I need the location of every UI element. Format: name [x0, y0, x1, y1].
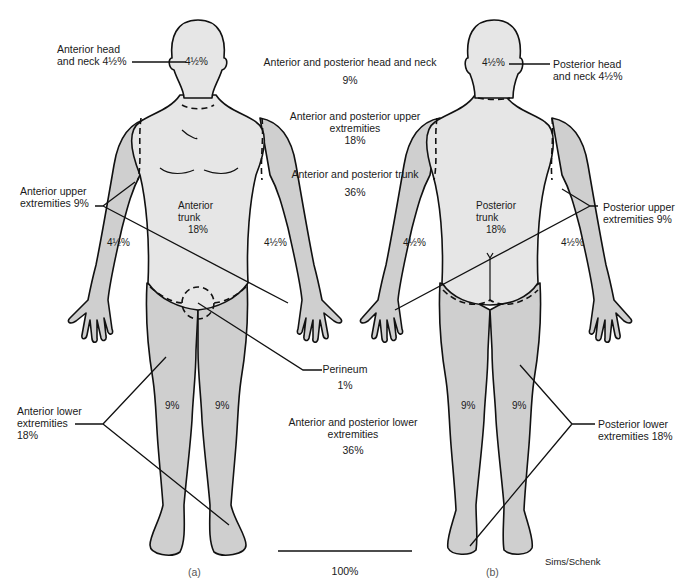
anterior-left-leg [146, 283, 198, 555]
anterior-upper-extremities-label: Anterior upper extremities 9% [20, 185, 89, 209]
anterior-head-value: 4½% [185, 56, 208, 68]
anterior-right-leg [198, 283, 248, 555]
posterior-right-arm-value: 4½% [561, 237, 584, 249]
posterior-head-label: Posterior head and neck 4½% [553, 58, 622, 82]
summary-lower-extremities: Anterior and posterior lower extremities… [268, 416, 438, 456]
anterior-right-arm [260, 118, 342, 342]
anterior-head-label: Anterior head and neck 4½% [57, 43, 126, 67]
posterior-upper-extremities-label: Posterior upper extremities 9% [603, 201, 675, 225]
anterior-caption: (a) [188, 566, 201, 578]
posterior-trunk-label: Posterior trunk 18% [476, 200, 516, 236]
anterior-left-arm-value: 4½% [107, 237, 130, 249]
posterior-left-leg-value: 9% [461, 400, 475, 412]
posterior-head-value: 4½% [482, 57, 505, 69]
posterior-right-leg-value: 9% [512, 400, 526, 412]
summary-total: 100% [315, 565, 375, 577]
posterior-left-leg [439, 283, 490, 554]
posterior-left-arm-value: 4½% [403, 237, 426, 249]
anterior-right-arm-value: 4½% [264, 237, 287, 249]
anterior-trunk-label: Anterior trunk 18% [178, 200, 213, 236]
summary-upper-extremities: Anterior and posterior upper extremities… [270, 110, 440, 146]
anterior-figure [68, 20, 341, 555]
summary-trunk: Anterior and posterior trunk 36% [270, 168, 440, 198]
anterior-right-leg-value: 9% [215, 400, 229, 412]
anterior-lower-extremities-label: Anterior lower extremities 18% [17, 405, 82, 441]
posterior-right-arm [552, 118, 632, 342]
illustrator-credit: Sims/Schenk [545, 556, 600, 568]
summary-head-neck: Anterior and posterior head and neck 9% [255, 56, 445, 86]
posterior-lower-extremities-label: Posterior lower extremities 18% [598, 418, 673, 442]
rule-of-nines-diagram [0, 0, 697, 588]
anterior-left-leg-value: 9% [165, 400, 179, 412]
summary-perineum: Perineum 1% [315, 363, 375, 391]
posterior-figure [360, 20, 631, 554]
posterior-caption: (b) [486, 566, 499, 578]
